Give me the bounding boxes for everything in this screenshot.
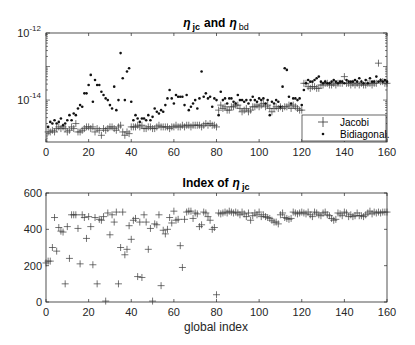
x-tick-label: 100: [250, 306, 268, 318]
bidiagonal-marker: [79, 104, 82, 107]
bidiagonal-marker: [200, 70, 203, 73]
x-tick-label: 140: [335, 306, 353, 318]
x-tick-label: 140: [335, 146, 353, 158]
bidiagonal-marker: [158, 112, 161, 115]
bidiagonal-marker: [337, 82, 340, 85]
x-tick-label: 100: [250, 146, 268, 158]
bottom-title-sub: jc: [241, 182, 250, 192]
bidiagonal-marker: [320, 80, 323, 83]
bidiagonal-marker: [332, 79, 335, 82]
bidiagonal-marker: [102, 94, 105, 97]
bidiagonal-marker: [209, 95, 212, 98]
bidiagonal-marker: [136, 117, 139, 120]
bidiagonal-marker: [138, 121, 141, 124]
bidiagonal-marker: [124, 99, 127, 102]
bidiagonal-marker: [181, 95, 184, 98]
bidiagonal-marker: [296, 99, 299, 102]
bidiagonal-marker: [294, 97, 297, 100]
bidiagonal-marker: [190, 105, 193, 108]
bidiagonal-marker: [281, 85, 284, 88]
bidiagonal-marker: [258, 97, 261, 100]
bidiagonal-marker: [192, 102, 195, 105]
bidiagonal-marker: [260, 99, 263, 102]
bidiagonal-marker: [230, 97, 233, 100]
bidiagonal-marker: [153, 107, 156, 110]
bidiagonal-marker: [128, 67, 131, 70]
bidiagonal-marker: [330, 80, 333, 83]
legend-jacobi-label: Jacobi: [340, 117, 369, 128]
bidiagonal-marker: [100, 90, 103, 93]
bidiagonal-marker: [358, 77, 361, 80]
top-title-and: and: [204, 16, 225, 30]
bidiagonal-marker: [324, 80, 327, 83]
bidiagonal-marker: [234, 102, 237, 105]
bidiagonal-marker: [273, 102, 276, 105]
bidiagonal-marker: [222, 99, 225, 102]
bidiagonal-marker: [335, 80, 338, 83]
bidiagonal-marker: [356, 80, 359, 83]
top-title-sub2: bd: [239, 22, 249, 32]
bidiagonal-marker: [55, 122, 58, 125]
bidiagonal-marker: [66, 119, 69, 122]
bidiagonal-marker: [196, 107, 199, 110]
bidiagonal-marker: [87, 84, 90, 87]
x-tick-label: 0: [43, 146, 49, 158]
bidiagonal-marker: [328, 82, 331, 85]
bidiagonal-marker: [85, 92, 88, 95]
bottom-title-eta: η: [233, 176, 240, 190]
bidiagonal-marker: [241, 99, 244, 102]
bidiagonal-marker: [145, 119, 148, 122]
x-tick-label: 60: [168, 146, 180, 158]
bidiagonal-marker: [375, 75, 378, 78]
x-tick-label: 40: [125, 306, 137, 318]
bidiagonal-marker: [300, 104, 303, 107]
bidiagonal-marker: [113, 85, 116, 88]
bidiagonal-marker: [279, 105, 282, 108]
bidiagonal-marker: [245, 99, 248, 102]
bidiagonal-marker: [111, 107, 114, 110]
bidiagonal-marker: [232, 100, 235, 103]
bidiagonal-marker: [345, 79, 348, 82]
bidiagonal-marker: [109, 104, 112, 107]
x-tick-label: 20: [83, 306, 95, 318]
bidiagonal-marker: [266, 99, 269, 102]
bidiagonal-marker: [373, 80, 376, 83]
bottom-axes: 020406080100120140160 0200400600 Index o…: [24, 176, 397, 334]
bidiagonal-marker: [288, 95, 291, 98]
bidiagonal-marker: [187, 109, 190, 112]
bidiagonal-marker: [341, 80, 344, 83]
bidiagonal-marker: [57, 121, 60, 124]
figure: 020406080100120140160 10-1410-12 ηjcandη…: [0, 0, 415, 345]
bidiagonal-marker: [251, 95, 254, 98]
legend: Jacobi Bidiagonal.: [302, 115, 389, 141]
y-tick-label: 400: [24, 223, 42, 235]
bidiagonal-marker: [262, 97, 265, 100]
bidiagonal-marker: [207, 97, 210, 100]
bidiagonal-marker: [354, 79, 357, 82]
y-tick-label: 200: [24, 260, 42, 272]
bidiagonal-marker: [149, 119, 152, 122]
bottom-x-axis-label: global index: [184, 320, 248, 334]
bidiagonal-marker: [217, 114, 220, 117]
bidiagonal-marker: [170, 97, 173, 100]
bidiagonal-marker: [377, 80, 380, 83]
bidiagonal-marker: [352, 80, 355, 83]
bidiagonal-marker: [379, 79, 382, 82]
bidiagonal-marker: [162, 111, 165, 114]
bidiagonal-marker: [121, 77, 124, 80]
bidiagonal-marker: [160, 109, 163, 112]
bidiagonal-marker: [173, 102, 176, 105]
bidiagonal-marker: [202, 95, 205, 98]
y-tick-label: 10-14: [17, 91, 41, 106]
bottom-title: Index ofηjc: [183, 176, 250, 192]
bidiagonal-marker: [367, 82, 370, 85]
bidiagonal-marker: [134, 114, 137, 117]
top-title-eta1: η: [183, 16, 190, 30]
bidiagonal-marker: [364, 79, 367, 82]
bidiagonal-marker: [94, 79, 97, 82]
bidiagonal-marker: [64, 122, 67, 125]
bidiagonal-marker: [156, 111, 159, 114]
bidiagonal-marker: [313, 79, 316, 82]
bidiagonal-marker: [51, 122, 54, 125]
bidiagonal-marker: [143, 117, 146, 120]
